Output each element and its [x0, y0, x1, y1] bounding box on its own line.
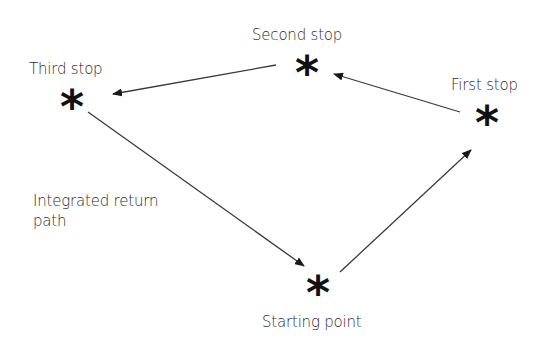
edge-third-to-start	[88, 112, 304, 266]
diagram-canvas: Third stop * Second stop * First stop * …	[0, 0, 558, 344]
node-label-third-stop: Third stop	[29, 60, 102, 79]
node-label-first-stop: First stop	[451, 76, 518, 95]
node-label-second-stop: Second stop	[252, 26, 342, 45]
asterisk-icon: *	[303, 270, 333, 316]
edge-label-return-path: Integrated return path	[33, 191, 213, 231]
edge-start-to-first	[340, 150, 471, 272]
edge-second-to-third	[113, 65, 276, 94]
asterisk-icon: *	[57, 84, 87, 130]
edge-label-line-2: path	[33, 211, 213, 231]
node-label-starting-point: Starting point	[262, 313, 362, 332]
edge-first-to-second	[334, 74, 460, 112]
edge-label-line-1: Integrated return	[33, 191, 213, 211]
edges-layer	[0, 0, 558, 344]
asterisk-icon: *	[472, 100, 502, 146]
asterisk-icon: *	[292, 50, 322, 96]
